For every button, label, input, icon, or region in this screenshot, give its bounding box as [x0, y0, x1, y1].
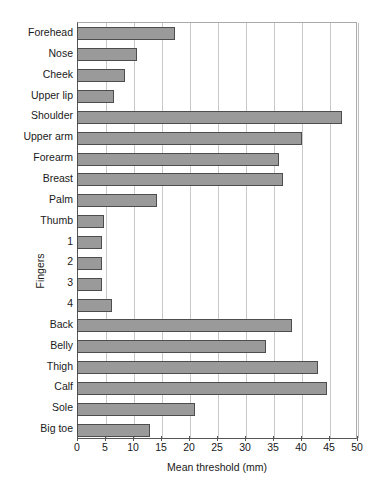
bar-row — [78, 127, 358, 149]
bar-row — [78, 148, 358, 170]
bar-row — [78, 44, 358, 66]
bar-row — [78, 377, 358, 399]
x-tick-mark-30 — [245, 436, 246, 441]
x-tick-50: 50 — [351, 441, 363, 453]
bar-row — [78, 315, 358, 337]
y-axis-label-sole: Sole — [0, 397, 73, 419]
bar-1 — [77, 236, 102, 249]
bar-row — [78, 23, 358, 45]
bar-row — [78, 273, 358, 295]
bar-chart: ForeheadNoseCheekUpper lipShoulderUpper … — [0, 0, 381, 494]
x-tick-mark-15 — [161, 436, 162, 441]
x-tick-mark-50 — [357, 436, 358, 441]
bar-row — [78, 211, 358, 233]
x-tick-20: 20 — [183, 441, 195, 453]
x-tick-10: 10 — [127, 441, 139, 453]
y-axis-label-back: Back — [0, 314, 73, 336]
x-tick-mark-10 — [133, 436, 134, 441]
bar-thigh — [77, 361, 318, 374]
bar-upper-lip — [77, 90, 114, 103]
bar-breast — [77, 173, 283, 186]
x-tick-mark-25 — [217, 436, 218, 441]
bar-shoulder — [77, 111, 342, 124]
y-axis-label-breast: Breast — [0, 168, 73, 190]
bar-row — [78, 169, 358, 191]
bar-nose — [77, 48, 137, 61]
bar-row — [78, 357, 358, 379]
bar-belly — [77, 340, 266, 353]
bar-row — [78, 294, 358, 316]
bar-row — [78, 336, 358, 358]
bar-calf — [77, 382, 327, 395]
y-axis-label-cheek: Cheek — [0, 64, 73, 86]
gridline-50 — [358, 23, 359, 438]
x-tick-25: 25 — [211, 441, 223, 453]
x-tick-mark-40 — [301, 436, 302, 441]
x-tick-15: 15 — [155, 441, 167, 453]
x-tick-mark-5 — [105, 436, 106, 441]
plot-area — [77, 22, 357, 439]
bar-row — [78, 419, 358, 441]
bar-cheek — [77, 69, 125, 82]
bar-palm — [77, 194, 157, 207]
y-axis-label-belly: Belly — [0, 335, 73, 357]
x-axis-ticks: 05101520253035404550 — [77, 441, 357, 457]
x-tick-45: 45 — [323, 441, 335, 453]
y-axis-label-upper-arm: Upper arm — [0, 126, 73, 148]
x-tick-mark-20 — [189, 436, 190, 441]
y-axis-labels: ForeheadNoseCheekUpper lipShoulderUpper … — [0, 22, 73, 439]
bar-row — [78, 65, 358, 87]
bar-forehead — [77, 27, 175, 40]
bar-series — [78, 23, 356, 438]
x-tick-5: 5 — [102, 441, 108, 453]
y-axis-label-calf: Calf — [0, 376, 73, 398]
y-axis-label-forearm: Forearm — [0, 147, 73, 169]
y-axis-label-thumb: Thumb — [0, 210, 73, 232]
x-tick-35: 35 — [267, 441, 279, 453]
bar-2 — [77, 257, 102, 270]
y-axis-label-shoulder: Shoulder — [0, 105, 73, 127]
x-tick-mark-0 — [77, 436, 78, 441]
x-tick-0: 0 — [74, 441, 80, 453]
y-axis-label-palm: Palm — [0, 189, 73, 211]
x-tick-30: 30 — [239, 441, 251, 453]
bar-sole — [77, 403, 195, 416]
x-tick-40: 40 — [295, 441, 307, 453]
bar-back — [77, 319, 292, 332]
bar-row — [78, 106, 358, 128]
bar-row — [78, 252, 358, 274]
y-axis-label-4: 4 — [0, 293, 73, 315]
bar-4 — [77, 299, 112, 312]
x-axis-title: Mean threshold (mm) — [77, 461, 357, 473]
y-axis-label-nose: Nose — [0, 43, 73, 65]
bar-big-toe — [77, 424, 150, 437]
y-axis-label-thigh: Thigh — [0, 356, 73, 378]
bar-row — [78, 232, 358, 254]
bar-upper-arm — [77, 132, 302, 145]
x-tick-mark-35 — [273, 436, 274, 441]
x-tick-mark-45 — [329, 436, 330, 441]
bar-thumb — [77, 215, 104, 228]
bar-row — [78, 398, 358, 420]
fingers-group-label: Fingers — [34, 249, 46, 293]
bar-row — [78, 86, 358, 108]
y-axis-label-upper-lip: Upper lip — [0, 85, 73, 107]
y-axis-label-big-toe: Big toe — [0, 418, 73, 440]
bar-3 — [77, 278, 102, 291]
bar-row — [78, 190, 358, 212]
y-axis-label-forehead: Forehead — [0, 22, 73, 44]
bar-forearm — [77, 153, 279, 166]
